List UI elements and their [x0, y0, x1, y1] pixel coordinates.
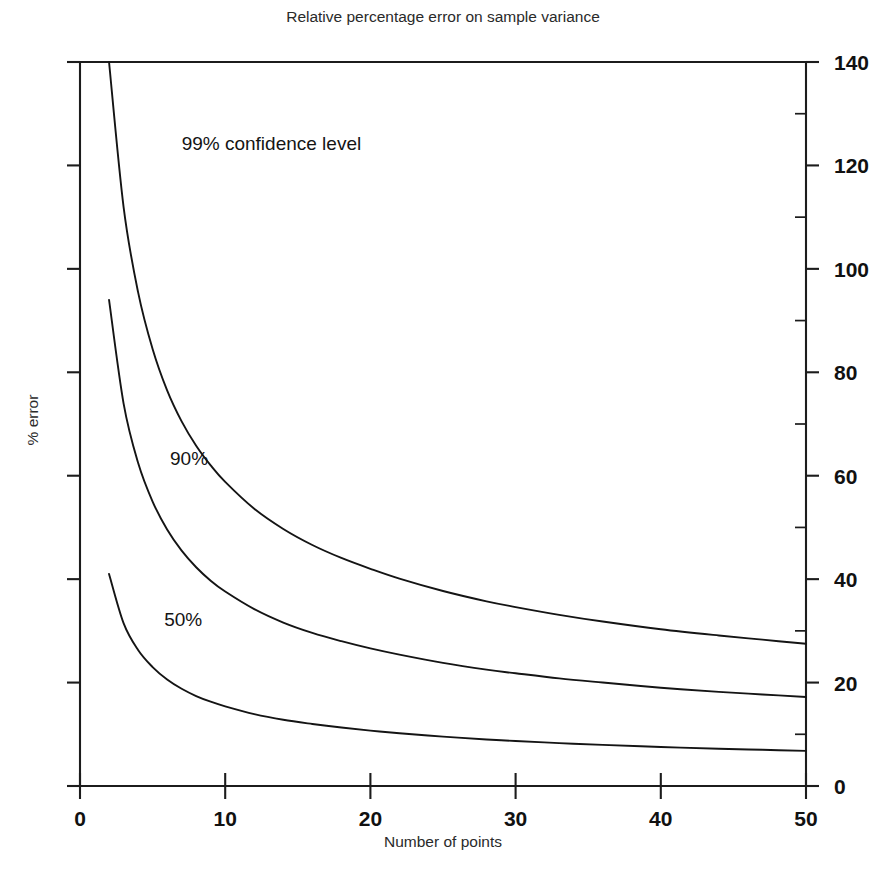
x-tick-label-30: 30 — [504, 807, 527, 830]
curve-label-50-: 50% — [164, 609, 202, 630]
x-tick-label-20: 20 — [359, 807, 382, 830]
x-tick-label-10: 10 — [214, 807, 237, 830]
chart-figure: Relative percentage error on sample vari… — [0, 0, 891, 874]
relative-percentage-error-chart: Relative percentage error on sample vari… — [0, 0, 891, 874]
y-tick-label-20: 20 — [834, 672, 857, 695]
y-tick-label-40: 40 — [834, 568, 857, 591]
x-tick-label-0: 0 — [74, 807, 86, 830]
chart-title: Relative percentage error on sample vari… — [286, 8, 600, 25]
curve-label-90-: 90% — [170, 448, 208, 469]
y-tick-label-80: 80 — [834, 361, 857, 384]
y-tick-label-100: 100 — [834, 258, 869, 281]
x-axis-title: Number of points — [384, 833, 502, 850]
curve-label-99-confidence-level: 99% confidence level — [182, 133, 362, 154]
y-tick-label-60: 60 — [834, 465, 857, 488]
y-tick-label-0: 0 — [834, 775, 846, 798]
figure-background — [0, 0, 891, 874]
x-tick-label-50: 50 — [794, 807, 817, 830]
x-tick-label-40: 40 — [649, 807, 672, 830]
y-axis-title: % error — [24, 395, 41, 446]
y-tick-label-120: 120 — [834, 154, 869, 177]
y-tick-label-140: 140 — [834, 51, 869, 74]
